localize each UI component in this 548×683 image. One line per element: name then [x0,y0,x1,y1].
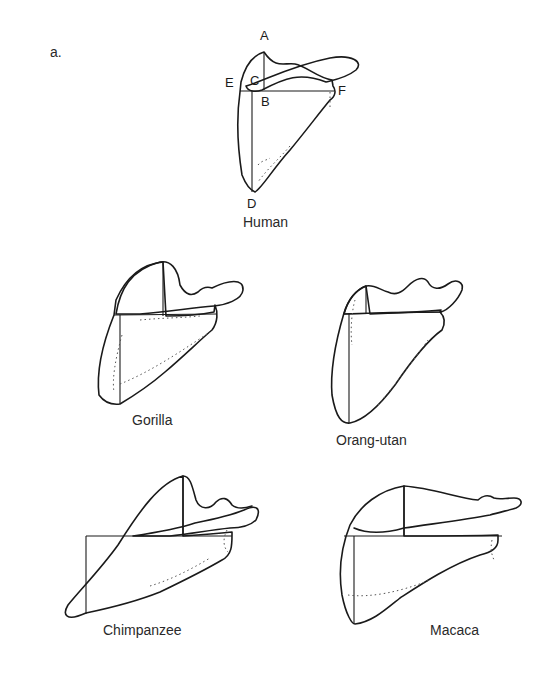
macaca-scapula-outline [340,486,498,624]
point-label-e: E [225,75,234,90]
specimen-human: A E C B F D Human [225,28,358,230]
specimen-orangutan: Orang-utan [332,279,463,448]
specimen-macaca: Macaca [340,486,521,638]
point-label-d: D [247,196,256,211]
orangutan-spine-outline [344,279,462,314]
macaca-spine-outline [354,486,521,532]
chimpanzee-spine-outline [133,507,258,536]
point-label-c: C [250,73,259,88]
scapula-comparison-diagram: a. A E C B F D Human Gorilla [0,0,548,683]
specimen-label-gorilla: Gorilla [132,412,173,428]
point-label-b: B [261,94,270,109]
specimen-label-chimpanzee: Chimpanzee [103,622,182,638]
panel-label: a. [50,44,62,60]
chimpanzee-upper-blade [183,476,252,508]
gorilla-body-top [116,262,243,314]
specimen-label-orangutan: Orang-utan [336,432,407,448]
specimen-gorilla: Gorilla [98,262,243,428]
point-label-a: A [260,28,269,43]
chimpanzee-scapula-outline [65,476,232,617]
gorilla-scapula-outline [98,262,217,404]
specimen-label-human: Human [243,214,288,230]
specimen-chimpanzee: Chimpanzee [65,476,258,638]
specimen-label-macaca: Macaca [430,622,479,638]
point-label-f: F [338,83,346,98]
